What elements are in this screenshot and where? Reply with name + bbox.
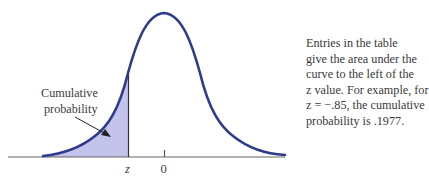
caption-line-5: z = −.85, the cumulative [306, 98, 428, 114]
z-tick-label: z [124, 162, 130, 176]
caption-line-6: probability is .1977. [306, 114, 428, 130]
caption-line-1: Entries in the table [306, 36, 428, 52]
region-label-line-1: Cumulative [41, 86, 98, 100]
caption-line-3: curve to the left of the [306, 67, 428, 83]
zero-tick-label: 0 [161, 162, 167, 176]
region-label-line-2: probability [44, 102, 98, 116]
label-arrow [75, 117, 106, 134]
caption-text: Entries in the table give the area under… [306, 36, 428, 130]
caption-line-4: z value. For example, for [306, 83, 428, 99]
normal-curve [43, 13, 285, 156]
caption-line-2: give the area under the [306, 52, 428, 68]
